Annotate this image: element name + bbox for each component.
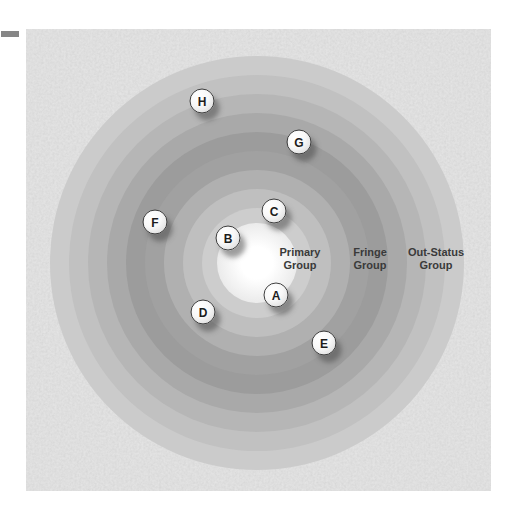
member-marker-letter: H <box>198 94 207 108</box>
page: PrimaryGroupFringeGroupOut-StatusGroup A… <box>0 0 516 512</box>
page-margin-dash <box>1 31 19 37</box>
member-marker-letter: B <box>224 231 233 245</box>
zone-label-line: Group <box>353 259 387 272</box>
member-marker-b: B <box>216 226 241 251</box>
member-marker-d: D <box>191 300 216 325</box>
zone-label-line: Group <box>408 259 464 272</box>
zone-label-fringe-group: FringeGroup <box>353 246 387 272</box>
member-marker-e: E <box>312 331 337 356</box>
member-marker-letter: E <box>320 336 328 350</box>
member-marker-a: A <box>264 283 289 308</box>
zone-label-line: Primary <box>280 246 321 259</box>
member-marker-letter: F <box>151 215 158 229</box>
zone-label-out-status-group: Out-StatusGroup <box>408 246 464 272</box>
member-marker-c: C <box>262 199 287 224</box>
member-marker-g: G <box>287 130 312 155</box>
member-marker-h: H <box>190 89 215 114</box>
member-marker-letter: C <box>270 204 279 218</box>
member-marker-letter: A <box>272 288 281 302</box>
zone-label-line: Out-Status <box>408 246 464 259</box>
member-marker-letter: D <box>199 305 208 319</box>
member-marker-f: F <box>143 210 168 235</box>
member-marker-letter: G <box>294 135 303 149</box>
zone-label-line: Group <box>280 259 321 272</box>
diagram-panel: PrimaryGroupFringeGroupOut-StatusGroup A… <box>26 29 491 491</box>
zone-label-line: Fringe <box>353 246 387 259</box>
zone-label-primary-group: PrimaryGroup <box>280 246 321 272</box>
